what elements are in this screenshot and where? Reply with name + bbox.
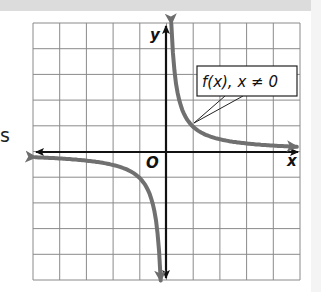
function-callout: f(x), x ≠ 0 [194, 66, 297, 123]
y-axis-label: y [150, 26, 161, 44]
function-label: f(x), x ≠ 0 [202, 73, 278, 91]
coordinate-plane: y x O f(x), x ≠ 0 [0, 0, 321, 292]
x-axis-label: x [286, 152, 298, 170]
origin-label: O [146, 154, 159, 172]
curve-branch-negative [35, 157, 161, 280]
axes [36, 26, 298, 278]
